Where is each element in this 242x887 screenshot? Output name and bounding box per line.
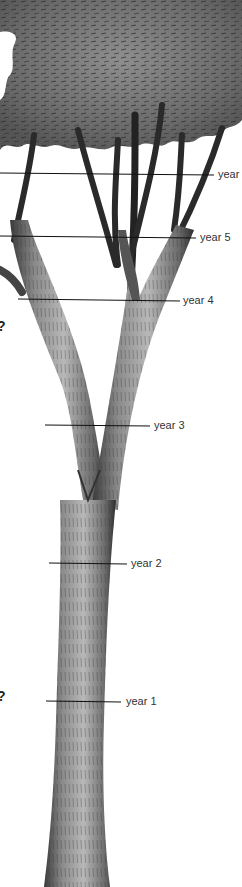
year-label-top: year xyxy=(218,168,239,180)
year-label-4: year 4 xyxy=(183,294,214,306)
trunk xyxy=(44,470,116,887)
tree-illustration xyxy=(0,0,242,887)
marker-line-year-3 xyxy=(45,425,150,426)
year-label-2: year 2 xyxy=(131,557,162,569)
canopy xyxy=(0,0,242,150)
year-label-5: year 5 xyxy=(200,231,231,243)
year-label-1: year 1 xyxy=(126,695,157,707)
question-mark-upper: ? xyxy=(0,319,6,333)
question-mark-lower: ? xyxy=(0,689,6,703)
tree-diagram: year year 5 year 4 year 3 year 2 year 1 … xyxy=(0,0,242,887)
left-limb xyxy=(10,220,108,505)
year-label-3: year 3 xyxy=(154,419,185,431)
right-limb xyxy=(92,225,194,510)
